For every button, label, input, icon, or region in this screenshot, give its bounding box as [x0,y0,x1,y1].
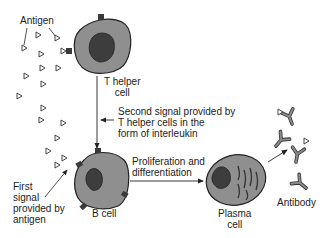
plasma-line1: Plasma [218,208,251,219]
plasma-cell [201,148,272,212]
antigen-pointers [24,28,56,45]
first-signal-label: First signal provided by antigen [13,181,65,225]
plasma-cell-label: Plasma cell [218,208,251,230]
antigen-particles [17,32,67,168]
proliferation-line2: differentiation [132,167,205,178]
first-signal-line3: provided by [13,203,65,214]
antigen-label: Antigen [20,15,54,26]
plasma-line2: cell [218,219,251,230]
antibodies [271,109,309,193]
t-helper-label: T helper cell [104,76,141,98]
t-helper-cell [61,14,131,73]
second-signal-line1: Second signal provided by [118,106,235,117]
b-cell [75,148,129,210]
second-signal-line2: T helper cells in the [118,117,235,128]
proliferation-label: Proliferation and differentiation [132,156,205,178]
first-signal-line4: antigen [13,214,65,225]
t-helper-line2: cell [104,87,141,98]
first-signal-line2: signal [13,192,65,203]
t-helper-line1: T helper [104,76,141,87]
first-signal-line1: First [13,181,65,192]
antibody-label: Antibody [277,197,316,208]
second-signal-line3: form of interleukin [118,128,235,139]
second-signal-label: Second signal provided by T helper cells… [118,106,235,139]
proliferation-line1: Proliferation and [132,156,205,167]
arrow-plasma-to-antibody [268,150,287,162]
b-cell-label: B cell [92,208,116,219]
